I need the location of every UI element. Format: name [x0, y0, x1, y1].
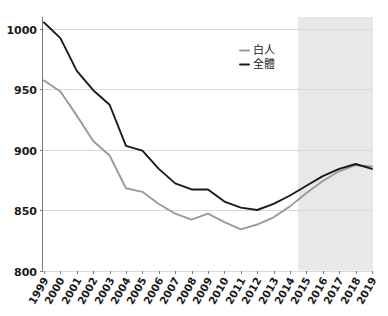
x-tick-labels-group: 1999200020012002200320042005200620072008… — [26, 275, 379, 306]
legend-label: 全體 — [253, 57, 275, 71]
chart-legend: 白人全體 — [240, 43, 275, 71]
y-tick-label: 1000 — [6, 24, 37, 37]
x-tick-group — [45, 271, 373, 275]
y-tick-labels-group: 8008509009501000 — [6, 24, 37, 279]
y-tick-label: 950 — [14, 84, 37, 97]
projection-band-group — [298, 17, 373, 271]
projection-band — [298, 17, 373, 271]
y-tick-label: 900 — [14, 145, 37, 158]
y-tick-label: 850 — [14, 205, 37, 218]
line-chart: 8008509009501000 19992000200120022003200… — [0, 0, 388, 316]
y-tick-label: 800 — [14, 266, 37, 279]
legend-label: 白人 — [253, 43, 275, 57]
chart-canvas: 8008509009501000 19992000200120022003200… — [0, 0, 388, 316]
